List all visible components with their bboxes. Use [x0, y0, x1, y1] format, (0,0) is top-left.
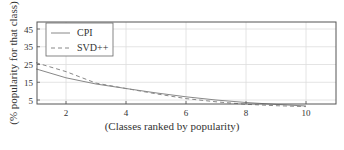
x-tick-label: 6	[184, 108, 189, 118]
x-axis-label: (Classes ranked by popularity)	[105, 120, 240, 133]
y-axis-label: (% popularity for that class)	[7, 1, 20, 125]
x-tick-label: 4	[124, 108, 129, 118]
legend-item-svdpp: SVD++	[77, 42, 109, 53]
x-tick-label: 2	[64, 108, 69, 118]
series-line-cpi	[36, 69, 306, 106]
y-tick-label: 5	[29, 96, 34, 106]
x-tick-label: 8	[244, 108, 249, 118]
y-tick-label: 15	[24, 78, 34, 88]
line-chart: 515253545 246810 (Classes ranked by popu…	[0, 0, 344, 150]
legend-item-cpi: CPI	[77, 27, 93, 38]
y-tick-label: 35	[24, 42, 34, 52]
x-tick-label: 10	[302, 108, 312, 118]
y-axis-ticks: 515253545	[24, 25, 40, 106]
y-tick-label: 25	[24, 60, 34, 70]
legend: CPI SVD++	[46, 23, 113, 56]
y-tick-label: 45	[24, 25, 34, 35]
